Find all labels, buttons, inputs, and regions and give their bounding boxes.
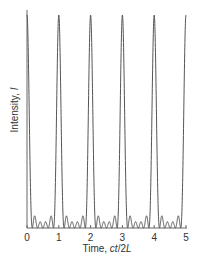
- x-tick-label: 5: [183, 232, 189, 243]
- intensity-curve: [27, 15, 186, 228]
- x-tick-labels: 012345: [24, 232, 189, 243]
- x-tick-label: 2: [88, 232, 94, 243]
- x-tick-label: 3: [120, 232, 126, 243]
- y-axis-label: Intensity, I: [9, 87, 20, 132]
- x-tick-label: 4: [151, 232, 157, 243]
- plot-area: [27, 10, 187, 228]
- intensity-chart: 012345 Time, ct/2L Intensity, I: [0, 0, 199, 266]
- x-tick-label: 1: [56, 232, 62, 243]
- x-tick-label: 0: [24, 232, 30, 243]
- x-axis-label: Time, ct/2L: [82, 243, 131, 254]
